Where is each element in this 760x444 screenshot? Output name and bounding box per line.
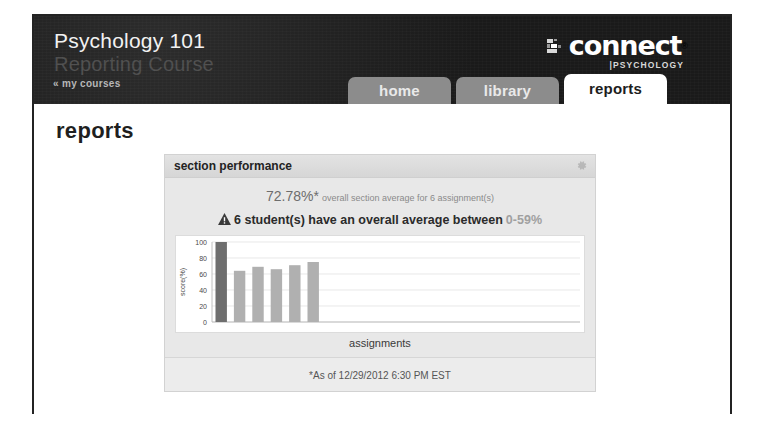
- chart-bar[interactable]: [289, 265, 300, 322]
- gear-icon[interactable]: [575, 159, 588, 172]
- panel-header: section performance: [165, 155, 595, 178]
- y-tick-label: 80: [199, 255, 207, 262]
- alert-range: 0-59%: [506, 213, 542, 227]
- alert-message: 6 student(s) have an overall average bet…: [234, 213, 503, 227]
- header-banner: Psychology 101 Reporting Course « my cou…: [34, 16, 730, 104]
- connect-blocks-icon: [547, 39, 564, 54]
- alert-line: 6 student(s) have an overall average bet…: [175, 207, 585, 235]
- chart-y-axis-label: score(%): [179, 268, 187, 296]
- connect-logo: connect® |PSYCHOLOGY: [547, 32, 688, 70]
- overall-average-value: 72.78%*: [266, 188, 319, 204]
- bar-chart-svg: 020406080100score(%): [176, 236, 584, 332]
- summary-line: 72.78%*overall section average for 6 ass…: [175, 184, 585, 207]
- tab-library[interactable]: library: [456, 77, 559, 104]
- brand-trademark-icon: ®: [681, 41, 688, 51]
- plot-background: [212, 242, 580, 322]
- application-frame: Psychology 101 Reporting Course « my cou…: [32, 14, 732, 414]
- chart-bar[interactable]: [234, 271, 245, 322]
- brand-row: connect®: [547, 32, 688, 59]
- y-tick-label: 40: [199, 287, 207, 294]
- panel-footer: *As of 12/29/2012 6:30 PM EST: [165, 357, 595, 391]
- section-performance-panel: section performance 72.78%*overall secti…: [164, 154, 596, 392]
- warning-triangle-icon: [218, 213, 231, 225]
- as-of-timestamp: *As of 12/29/2012 6:30 PM EST: [309, 370, 451, 381]
- y-tick-label: 0: [203, 319, 207, 326]
- y-tick-label: 20: [199, 303, 207, 310]
- tab-home[interactable]: home: [348, 77, 451, 104]
- course-title: Psychology 101: [54, 29, 205, 53]
- chart-bar[interactable]: [308, 262, 319, 322]
- overall-average-description: overall section average for 6 assignment…: [322, 193, 494, 203]
- chart-x-axis-label: assignments: [175, 333, 585, 357]
- my-courses-link[interactable]: « my courses: [53, 78, 121, 89]
- panel-body: 72.78%*overall section average for 6 ass…: [165, 178, 595, 357]
- y-tick-label: 60: [199, 271, 207, 278]
- y-tick-label: 100: [195, 239, 207, 246]
- brand-wordmark: connect: [569, 32, 682, 59]
- tab-bar: home library reports: [348, 74, 667, 104]
- chart-bar[interactable]: [252, 267, 263, 322]
- section-performance-chart[interactable]: 020406080100score(%): [175, 235, 585, 333]
- tab-reports[interactable]: reports: [564, 74, 667, 104]
- chart-bar[interactable]: [271, 269, 282, 322]
- brand-discipline: |PSYCHOLOGY: [547, 60, 684, 70]
- content-area: reports section performance 72.78%*overa…: [34, 104, 730, 414]
- course-subtitle: Reporting Course: [54, 53, 214, 76]
- page-title: reports: [56, 118, 134, 144]
- chart-bar[interactable]: [216, 242, 227, 322]
- panel-title: section performance: [174, 159, 292, 173]
